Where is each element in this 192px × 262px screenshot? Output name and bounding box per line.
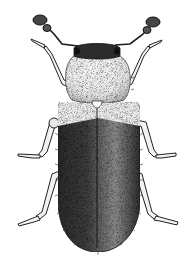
- middle-leg-left: [18, 118, 62, 158]
- eye-right: [114, 48, 120, 55]
- eye-left: [74, 48, 80, 55]
- antenna-club-left: [33, 15, 47, 25]
- antenna-segment-left: [43, 25, 51, 32]
- hind-leg-left: [18, 170, 64, 226]
- antenna-club-right: [146, 17, 160, 27]
- beetle-illustration: [0, 0, 192, 262]
- beetle-svg: [0, 0, 192, 262]
- pronotum: [66, 56, 131, 103]
- head: [74, 44, 120, 60]
- antenna-segment-right: [143, 27, 151, 34]
- elytra: [58, 102, 140, 252]
